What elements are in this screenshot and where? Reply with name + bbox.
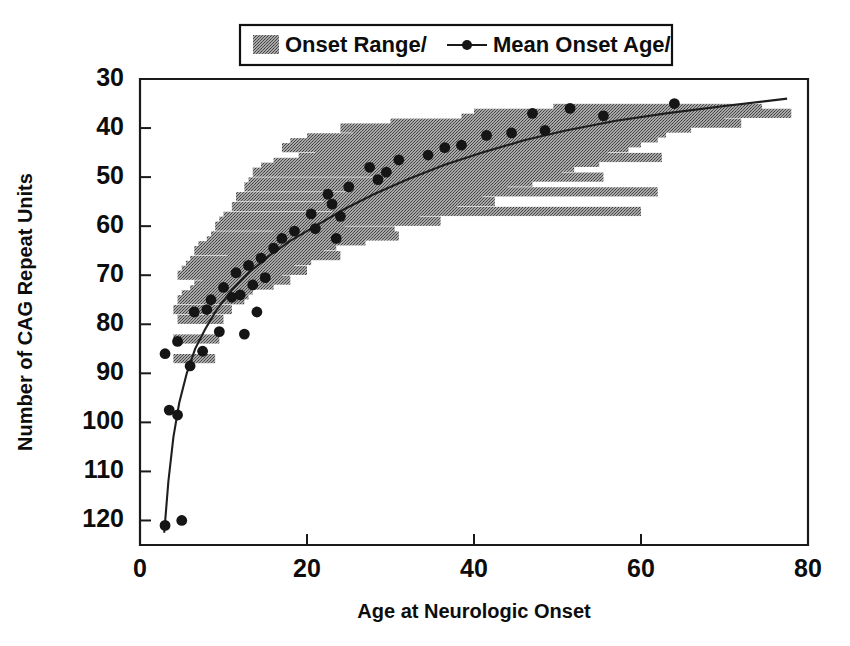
mean-onset-age-point	[260, 272, 271, 283]
y-axis-tick-label: 90	[96, 357, 124, 385]
cag-repeat-onset-scatter-chart: 30405060708090100110120020406080 Age at …	[0, 0, 850, 646]
x-axis-tick-label: 40	[460, 554, 488, 582]
mean-onset-age-point	[172, 410, 183, 421]
mean-onset-age-point	[565, 103, 576, 114]
mean-onset-age-point	[373, 174, 384, 185]
y-axis-tick-label: 70	[96, 259, 124, 287]
mean-onset-age-point	[235, 289, 246, 300]
mean-onset-age-point	[423, 150, 434, 161]
mean-onset-age-point	[322, 189, 333, 200]
onset-range-bars	[173, 104, 791, 363]
mean-onset-age-point	[439, 142, 450, 153]
x-axis-tick-label: 20	[293, 554, 321, 582]
mean-onset-age-point	[335, 211, 346, 222]
mean-onset-age-point	[289, 226, 300, 237]
mean-onset-age-point	[669, 98, 680, 109]
mean-onset-age-point	[456, 140, 467, 151]
mean-onset-age-point	[239, 329, 250, 340]
legend-label-onset-range: Onset Range/	[285, 32, 427, 57]
y-axis-tick-label: 40	[96, 112, 124, 140]
x-axis-tick-label: 80	[794, 554, 822, 582]
mean-onset-age-point	[481, 130, 492, 141]
mean-onset-age-point	[310, 223, 321, 234]
legend-dot-mean-onset-age	[462, 40, 472, 50]
y-axis-tick-label: 120	[82, 504, 124, 532]
mean-onset-age-point	[189, 307, 200, 318]
mean-onset-age-point	[364, 162, 375, 173]
chart-figure: 30405060708090100110120020406080 Age at …	[0, 0, 850, 646]
y-axis-tick-label: 100	[82, 406, 124, 434]
mean-onset-age-point	[306, 208, 317, 219]
mean-onset-age-point	[506, 128, 517, 139]
mean-onset-age-point	[214, 326, 225, 337]
y-axis-tick-label: 50	[96, 161, 124, 189]
onset-range-bar	[178, 315, 224, 324]
mean-onset-age-point	[256, 253, 267, 264]
mean-onset-age-point	[252, 307, 263, 318]
mean-onset-age-point	[206, 294, 217, 305]
y-axis-title: Number of CAG Repeat Units	[14, 173, 36, 451]
mean-onset-age-point	[331, 233, 342, 244]
mean-onset-age-point	[540, 125, 551, 136]
mean-onset-age-point	[231, 267, 242, 278]
y-axis-tick-label: 60	[96, 210, 124, 238]
mean-onset-age-point	[160, 520, 171, 531]
legend-label-mean-onset-age: Mean Onset Age/	[493, 32, 671, 57]
mean-onset-age-point	[160, 348, 171, 359]
mean-onset-age-point	[243, 260, 254, 271]
legend-swatch-onset-range	[253, 35, 279, 54]
mean-onset-age-point	[247, 280, 258, 291]
y-axis-tick-label: 110	[84, 455, 124, 483]
y-axis-tick-label: 30	[96, 63, 124, 91]
mean-onset-age-point	[527, 108, 538, 119]
mean-onset-age-point	[172, 336, 183, 347]
mean-onset-age-point	[381, 167, 392, 178]
mean-onset-age-point	[218, 282, 229, 293]
onset-range-bar	[173, 354, 215, 363]
chart-legend: Onset Range/ Mean Onset Age/	[240, 25, 672, 65]
x-axis-title: Age at Neurologic Onset	[357, 600, 591, 622]
mean-onset-age-point	[201, 304, 212, 315]
mean-onset-age-point	[268, 243, 279, 254]
mean-onset-age-point	[327, 199, 338, 210]
mean-onset-age-point	[197, 346, 208, 357]
x-axis-tick-label: 60	[627, 554, 655, 582]
x-axis-tick-label: 0	[133, 554, 147, 582]
mean-onset-age-point	[277, 233, 288, 244]
mean-onset-age-point	[343, 182, 354, 193]
mean-onset-age-point	[185, 361, 196, 372]
mean-onset-age-point	[176, 515, 187, 526]
mean-onset-age-point	[393, 155, 404, 166]
mean-onset-age-point	[598, 110, 609, 121]
y-axis-tick-label: 80	[96, 308, 124, 336]
